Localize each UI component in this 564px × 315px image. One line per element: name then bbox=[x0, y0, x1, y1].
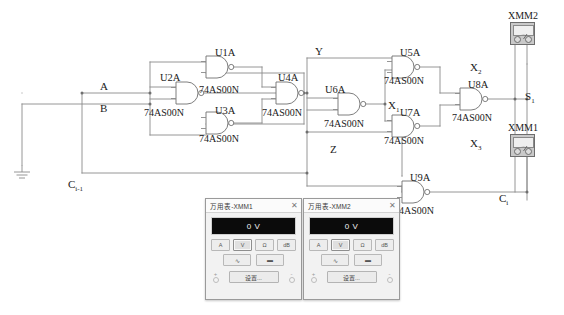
gate-u2a-ref-label: U2A bbox=[160, 72, 180, 83]
multimeter-xmm2-mode-current-button[interactable]: A bbox=[309, 239, 328, 251]
multimeter-xmm2-coupling-row: ∿▬ bbox=[309, 254, 394, 266]
node-z-label: Z bbox=[330, 143, 337, 155]
input-a-label-text: A bbox=[100, 80, 108, 92]
multimeter-xmm1-body: 0 VAVΩdB∿▬+设置...- bbox=[206, 213, 301, 287]
sum-out-label: S1 bbox=[525, 90, 535, 105]
sum-out-label-subscript: 1 bbox=[531, 97, 535, 105]
multimeter-xmm1-mode-row: AVΩdB bbox=[211, 239, 296, 251]
input-b-label-text: B bbox=[100, 102, 107, 114]
multimeter-xmm2-plus-terminal[interactable]: + bbox=[309, 271, 318, 283]
gate-u8a[interactable] bbox=[460, 88, 488, 110]
instrument-xmm2[interactable] bbox=[510, 22, 535, 45]
gate-u1a[interactable] bbox=[206, 56, 234, 78]
multimeter-xmm2-ac-coupling-button[interactable]: ∿ bbox=[321, 254, 349, 266]
minus-terminal-icon[interactable] bbox=[387, 277, 393, 283]
carry-out-label: Ci bbox=[499, 192, 508, 207]
instrument-xmm1-terminal-minus[interactable] bbox=[525, 148, 532, 155]
multimeter-xmm2-mode-decibel-button[interactable]: dB bbox=[375, 239, 394, 251]
gate-u3a-part-label: 74AS00N bbox=[199, 133, 239, 144]
minus-terminal-icon[interactable] bbox=[289, 277, 295, 283]
gate-u4a-ref-label: U4A bbox=[278, 72, 298, 83]
minus-label: - bbox=[291, 271, 293, 277]
instrument-xmm1[interactable] bbox=[510, 134, 535, 157]
gate-u4a[interactable] bbox=[276, 82, 304, 104]
multimeter-xmm2-dc-coupling-button[interactable]: ▬ bbox=[354, 254, 382, 266]
node-x2-label-text: X bbox=[470, 61, 478, 73]
multimeter-xmm1-titlebar[interactable]: 万用表-XMM1✕ bbox=[206, 199, 301, 213]
input-a-label: A bbox=[100, 80, 108, 92]
instrument-xmm1-label: XMM1 bbox=[508, 122, 538, 133]
multimeter-xmm2-mode-resistance-button[interactable]: Ω bbox=[353, 239, 372, 251]
plus-terminal-icon[interactable] bbox=[311, 277, 317, 283]
multimeter-xmm1-mode-voltage-button[interactable]: V bbox=[233, 239, 252, 251]
gate-u3a-ref-label: U3A bbox=[215, 105, 235, 116]
instrument-xmm2-terminal-plus[interactable] bbox=[514, 36, 521, 43]
gate-u6a[interactable] bbox=[338, 93, 366, 115]
multimeter-xmm1-reading-display: 0 V bbox=[211, 217, 296, 235]
gate-u8a-ref-label: U8A bbox=[468, 79, 488, 90]
instrument-xmm2-terminal-minus[interactable] bbox=[525, 36, 532, 43]
multimeter-xmm1-ac-coupling-button[interactable]: ∿ bbox=[223, 254, 251, 266]
gate-u9a-ref-label: U9A bbox=[410, 172, 430, 183]
close-icon[interactable]: ✕ bbox=[291, 202, 298, 210]
node-z-label-text: Z bbox=[330, 143, 337, 155]
multimeter-xmm2-reading-display: 0 V bbox=[309, 217, 394, 235]
plus-label: + bbox=[214, 271, 218, 277]
gate-u8a-part-label: 74AS00N bbox=[452, 112, 492, 123]
plus-label: + bbox=[312, 271, 316, 277]
node-x1-label: X1 bbox=[388, 99, 399, 114]
node-x2-label: X2 bbox=[470, 61, 481, 76]
gate-u9a[interactable] bbox=[402, 181, 430, 203]
gate-u7a[interactable] bbox=[392, 115, 420, 137]
gate-u7a-ref-label: U7A bbox=[400, 107, 420, 118]
gate-u9a-part-label: 74AS00N bbox=[394, 205, 434, 216]
gate-u6a-part-label: 74AS00N bbox=[324, 118, 364, 129]
node-y-label-text: Y bbox=[315, 45, 323, 57]
multimeter-xmm1-mode-decibel-button[interactable]: dB bbox=[277, 239, 296, 251]
plus-terminal-icon[interactable] bbox=[213, 277, 219, 283]
instrument-xmm1-body[interactable] bbox=[510, 134, 535, 157]
carry-in-label-subscript: i-1 bbox=[75, 185, 83, 193]
multimeter-xmm2-body: 0 VAVΩdB∿▬+设置...- bbox=[304, 213, 399, 287]
carry-in-label: Ci-1 bbox=[68, 178, 83, 193]
node-y-label: Y bbox=[315, 45, 323, 57]
ground-icon bbox=[14, 165, 30, 178]
input-b-label: B bbox=[100, 102, 107, 114]
multimeter-xmm1-footer: +设置...- bbox=[211, 270, 296, 283]
close-icon[interactable]: ✕ bbox=[389, 202, 396, 210]
node-x2-label-subscript: 2 bbox=[478, 68, 482, 76]
gate-u1a-part-label: 74AS00N bbox=[199, 84, 239, 95]
multimeter-xmm1-dc-coupling-button[interactable]: ▬ bbox=[256, 254, 284, 266]
instrument-xmm2-body[interactable] bbox=[510, 22, 535, 45]
multimeter-xmm2-titlebar[interactable]: 万用表-XMM2✕ bbox=[304, 199, 399, 213]
minus-label: - bbox=[389, 271, 391, 277]
multimeter-xmm2-mode-voltage-button[interactable]: V bbox=[331, 239, 350, 251]
multimeter-xmm1-settings-button[interactable]: 设置... bbox=[229, 271, 279, 283]
multimeter-xmm1-mode-resistance-button[interactable]: Ω bbox=[255, 239, 274, 251]
gate-u2a-part-label: 74AS00N bbox=[144, 107, 184, 118]
multimeter-xmm1-window[interactable]: 万用表-XMM1✕0 VAVΩdB∿▬+设置...- bbox=[205, 198, 302, 300]
node-x3-label: X3 bbox=[470, 137, 481, 152]
node-x1-label-subscript: 1 bbox=[396, 106, 400, 114]
multimeter-xmm1-minus-terminal[interactable]: - bbox=[287, 271, 296, 283]
node-x3-label-text: X bbox=[470, 137, 478, 149]
gate-u7a-part-label: 74AS00N bbox=[384, 135, 424, 146]
multimeter-xmm2-mode-row: AVΩdB bbox=[309, 239, 394, 251]
gate-u6a-ref-label: U6A bbox=[325, 84, 345, 95]
instrument-xmm1-dial-icon bbox=[513, 137, 534, 148]
multimeter-xmm1-mode-current-button[interactable]: A bbox=[211, 239, 230, 251]
multimeter-xmm1-plus-terminal[interactable]: + bbox=[211, 271, 220, 283]
gate-u4a-part-label: 74AS00N bbox=[262, 107, 302, 118]
node-x3-label-subscript: 3 bbox=[478, 144, 482, 152]
instrument-xmm1-terminal-plus[interactable] bbox=[514, 148, 521, 155]
carry-out-label-subscript: i bbox=[506, 199, 508, 207]
gate-u5a-ref-label: U5A bbox=[400, 47, 420, 58]
multimeter-xmm1-title: 万用表-XMM1 bbox=[210, 201, 253, 211]
multimeter-xmm2-minus-terminal[interactable]: - bbox=[385, 271, 394, 283]
multimeter-xmm1-coupling-row: ∿▬ bbox=[211, 254, 296, 266]
multimeter-xmm2-footer: +设置...- bbox=[309, 270, 394, 283]
multimeter-xmm2-window[interactable]: 万用表-XMM2✕0 VAVΩdB∿▬+设置...- bbox=[303, 198, 400, 300]
multimeter-xmm2-settings-button[interactable]: 设置... bbox=[327, 271, 377, 283]
instrument-xmm2-label: XMM2 bbox=[508, 10, 538, 21]
instrument-xmm2-dial-icon bbox=[513, 25, 534, 36]
